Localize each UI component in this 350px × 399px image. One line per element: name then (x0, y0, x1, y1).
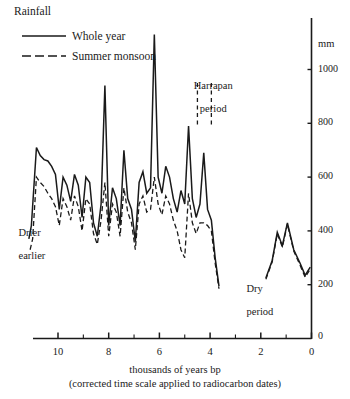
annotation-harrapan-period: Harrapan period (180, 68, 236, 127)
legend-label-summer-monsoon: Summer monsoon (72, 50, 156, 63)
chart-title: Rainfall (14, 5, 51, 18)
x-tick-label-8: 8 (99, 346, 119, 358)
annotation-drier-line2: earlier (19, 250, 46, 261)
annotation-harrapan-line2: period (200, 103, 227, 114)
y-tick-label-1000: 1000 (318, 63, 338, 74)
x-axis-ticks (58, 333, 312, 339)
y-axis-unit-label: mm (318, 38, 334, 50)
series-summer-monsoon (30, 177, 219, 289)
y-axis-zero-label: 0 (318, 330, 323, 341)
annotation-harrapan-line1: Harrapan (194, 80, 233, 91)
annotation-drier-earlier: Drier earlier (8, 215, 52, 274)
x-tick-label-10: 10 (48, 346, 68, 358)
y-tick-label-800: 800 (318, 116, 333, 127)
annotation-dry-period: Dry period (236, 271, 280, 330)
y-tick-label-400: 400 (318, 224, 333, 235)
chart-canvas (0, 0, 350, 399)
x-tick-label-4: 4 (200, 346, 220, 358)
annotation-drier-line1: Drier (19, 227, 41, 238)
annotation-dry-line1: Dry (247, 283, 263, 294)
annotation-dry-line2: period (247, 306, 274, 317)
rainfall-chart-figure: Rainfall Whole year Summer monsoon Harra… (0, 0, 350, 399)
series-whole-year-late-segment (266, 223, 310, 278)
x-axis-subtitle: (corrected time scale applied to radioca… (0, 378, 350, 390)
x-tick-label-6: 6 (149, 346, 169, 358)
y-tick-label-600: 600 (318, 170, 333, 181)
x-tick-label-2: 2 (251, 346, 271, 358)
y-tick-label-200: 200 (318, 278, 333, 289)
data-series-group (29, 35, 310, 289)
x-tick-label-0: 0 (302, 346, 322, 358)
x-axis-title: thousands of years bp (0, 364, 350, 376)
legend-label-whole-year: Whole year (72, 30, 125, 43)
